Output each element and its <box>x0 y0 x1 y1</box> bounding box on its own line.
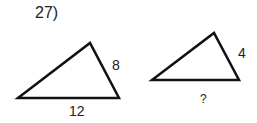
small-triangle <box>152 33 239 80</box>
large-triangle <box>18 43 119 98</box>
problem-number: 27) <box>35 5 58 21</box>
large-triangle-bottom-side-label: 12 <box>69 104 85 118</box>
small-triangle-bottom-side-label: ? <box>200 93 207 105</box>
large-triangle-right-side-label: 8 <box>112 58 120 72</box>
small-triangle-right-side-label: 4 <box>238 46 246 60</box>
